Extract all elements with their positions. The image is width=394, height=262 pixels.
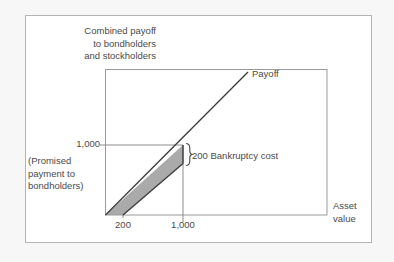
y-axis-note: (Promised payment to bondholders)	[28, 155, 106, 193]
bankruptcy-cost-wedge	[106, 145, 184, 215]
x-axis-label: Asset value	[333, 200, 373, 225]
page-title: Combined payoff to bondholders and stock…	[38, 25, 156, 63]
y-axis-tick-label-1000: 1,000	[56, 138, 100, 151]
x-axis-tick-label-200: 200	[108, 219, 138, 232]
payoff-line	[106, 72, 249, 215]
x-axis-tick-label-1000: 1,000	[165, 219, 201, 232]
bankruptcy-cost-annotation: 200 Bankruptcy cost	[192, 150, 278, 163]
figure-container: Combined payoff to bondholders and stock…	[0, 0, 394, 262]
payoff-line-label: Payoff	[252, 68, 279, 81]
